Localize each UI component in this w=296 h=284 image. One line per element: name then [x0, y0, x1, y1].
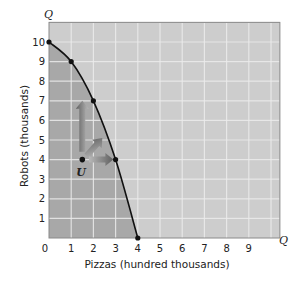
- point-label: U: [76, 166, 87, 179]
- x-axis-ticks: 0123456789: [42, 243, 252, 254]
- x-tick-label: 5: [157, 243, 163, 254]
- y-tick-label: 10: [32, 37, 45, 48]
- curve-point: [113, 157, 118, 162]
- y-axis-label: Robots (thousands): [18, 85, 30, 187]
- y-tick-label: 8: [39, 76, 45, 87]
- x-tick-label: 4: [135, 243, 141, 254]
- x-axis-end-label: Q: [279, 234, 288, 247]
- y-tick-label: 1: [39, 213, 45, 224]
- x-tick-label: 8: [223, 243, 229, 254]
- x-tick-label: 6: [179, 243, 185, 254]
- x-tick-label: 2: [90, 243, 96, 254]
- curve-point: [46, 39, 51, 44]
- x-tick-label: 7: [201, 243, 207, 254]
- y-tick-label: 2: [39, 193, 45, 204]
- x-tick-label: 0: [42, 243, 48, 254]
- y-axis-ticks: 12345678910: [32, 37, 45, 224]
- y-tick-label: 7: [39, 95, 45, 106]
- curve-point: [135, 235, 140, 240]
- y-tick-label: 6: [39, 115, 45, 126]
- x-tick-label: 3: [112, 243, 118, 254]
- y-tick-label: 5: [39, 135, 45, 146]
- y-axis-end-label: Q: [44, 8, 53, 21]
- y-tick-label: 3: [39, 174, 45, 185]
- point-marker: [80, 157, 86, 163]
- x-tick-label: 9: [246, 243, 252, 254]
- curve-point: [91, 98, 96, 103]
- ppf-chart: U 0123456789 12345678910 Q Q Pizzas (hun…: [0, 0, 296, 284]
- x-axis-label: Pizzas (hundred thousands): [84, 258, 229, 270]
- y-tick-label: 4: [39, 154, 45, 165]
- x-tick-label: 1: [68, 243, 74, 254]
- curve-point: [69, 59, 74, 64]
- y-tick-label: 9: [39, 56, 45, 67]
